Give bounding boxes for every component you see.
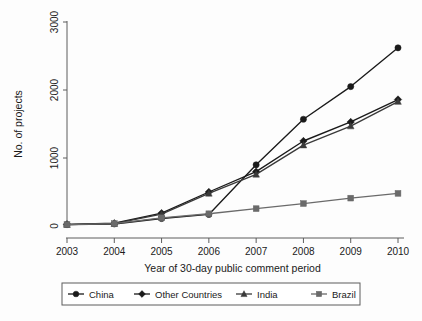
- y-tick-label: 3000: [49, 10, 60, 33]
- data-point-square: [159, 215, 165, 221]
- y-tick-label: 1000: [49, 146, 60, 169]
- x-axis-title: Year of 30-day public comment period: [144, 262, 321, 274]
- data-point-circle: [73, 291, 79, 297]
- y-tick-label: 0: [49, 223, 60, 229]
- series-india: [64, 98, 402, 227]
- x-tick-label: 2005: [150, 246, 173, 257]
- x-tick-label: 2003: [56, 246, 79, 257]
- data-point-circle: [395, 45, 401, 51]
- y-axis-title: No. of projects: [12, 90, 24, 158]
- chart-container: 0100020003000No. of projects200320042005…: [0, 0, 422, 321]
- x-tick-label: 2010: [387, 246, 410, 257]
- series-line: [67, 102, 398, 225]
- series-line: [67, 100, 398, 225]
- x-tick-label: 2006: [198, 246, 221, 257]
- x-tick-label: 2008: [292, 246, 315, 257]
- x-tick-label: 2004: [103, 246, 126, 257]
- data-point-square: [348, 195, 354, 201]
- data-point-square: [316, 291, 321, 296]
- data-point-square: [111, 221, 117, 227]
- series-brazil: [64, 190, 401, 227]
- data-point-square: [253, 206, 259, 212]
- legend-label: Brazil: [332, 289, 356, 300]
- data-point-square: [395, 190, 401, 196]
- data-point-square: [64, 222, 70, 228]
- line-chart: 0100020003000No. of projects200320042005…: [0, 0, 422, 321]
- data-point-square: [206, 211, 212, 217]
- x-tick-label: 2009: [340, 246, 363, 257]
- data-point-circle: [348, 84, 354, 90]
- series-other-countries: [63, 96, 401, 228]
- legend-label: China: [89, 289, 115, 300]
- data-point-circle: [300, 116, 306, 122]
- data-point-circle: [253, 162, 259, 168]
- legend-label: Other Countries: [155, 289, 222, 300]
- y-tick-label: 2000: [49, 78, 60, 101]
- x-tick-label: 2007: [245, 246, 268, 257]
- legend-label: India: [257, 289, 278, 300]
- data-point-square: [301, 201, 307, 207]
